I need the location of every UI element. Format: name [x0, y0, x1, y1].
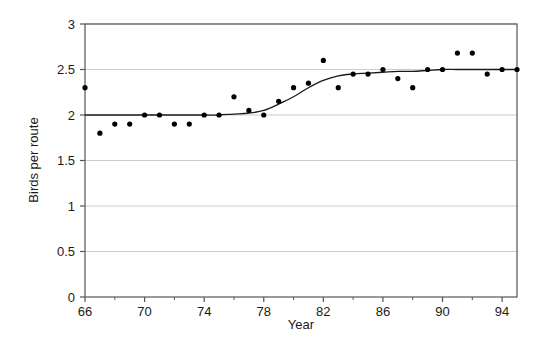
data-point: [216, 112, 221, 117]
data-point: [425, 67, 430, 72]
x-tick-label: 78: [257, 304, 271, 319]
data-point: [336, 85, 341, 90]
data-point: [97, 131, 102, 136]
data-point: [455, 51, 460, 56]
data-point: [82, 85, 87, 90]
data-point: [365, 71, 370, 76]
y-tick-label: 0.5: [57, 244, 75, 259]
chart-figure: 6670747882869094 00.511.522.53 Year Bird…: [0, 0, 535, 339]
data-point: [395, 76, 400, 81]
data-point: [276, 99, 281, 104]
data-point: [410, 85, 415, 90]
y-tick-label: 1: [68, 199, 75, 214]
data-point: [187, 122, 192, 127]
y-tick-label: 2.5: [57, 62, 75, 77]
data-point: [142, 112, 147, 117]
y-axis-title: Birds per route: [26, 117, 41, 202]
data-point: [291, 85, 296, 90]
x-tick-label: 74: [197, 304, 211, 319]
data-point: [112, 122, 117, 127]
y-tick-label: 1.5: [57, 153, 75, 168]
x-tick-label: 94: [495, 304, 509, 319]
data-point: [261, 112, 266, 117]
y-tick-label: 2: [68, 108, 75, 123]
data-point: [157, 112, 162, 117]
x-tick-label: 82: [316, 304, 330, 319]
scatter-plot-svg: 6670747882869094 00.511.522.53 Year Bird…: [0, 0, 535, 339]
data-point: [231, 94, 236, 99]
data-point: [514, 67, 519, 72]
x-tick-label: 66: [78, 304, 92, 319]
data-point: [246, 108, 251, 113]
y-tick-label: 3: [68, 17, 75, 32]
data-point: [485, 71, 490, 76]
x-tick-label: 86: [376, 304, 390, 319]
x-tick-label: 70: [137, 304, 151, 319]
data-point: [321, 58, 326, 63]
y-tick-label: 0: [68, 290, 75, 305]
data-point: [380, 67, 385, 72]
data-point: [470, 51, 475, 56]
data-point: [172, 122, 177, 127]
x-tick-label: 90: [435, 304, 449, 319]
data-point: [202, 112, 207, 117]
plot-background: [0, 0, 535, 339]
data-point: [127, 122, 132, 127]
data-point: [440, 67, 445, 72]
x-axis-title: Year: [288, 317, 315, 332]
data-point: [306, 81, 311, 86]
data-point: [500, 67, 505, 72]
data-point: [351, 71, 356, 76]
